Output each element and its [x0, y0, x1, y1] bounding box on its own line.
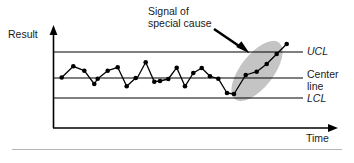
ucl-label: UCL: [307, 45, 328, 57]
x-axis: [53, 124, 338, 132]
control-chart-figure: Signal of special cause Result Time UCL …: [0, 0, 354, 163]
y-axis-label: Result: [8, 28, 38, 40]
lcl-label: LCL: [307, 92, 326, 104]
x-axis-label: Time: [306, 132, 329, 144]
y-axis: [50, 25, 58, 128]
callout-arrow-icon: [214, 29, 250, 53]
center-line-label: Center line: [307, 68, 339, 92]
special-cause-annotation-label: Signal of special cause: [148, 5, 212, 29]
